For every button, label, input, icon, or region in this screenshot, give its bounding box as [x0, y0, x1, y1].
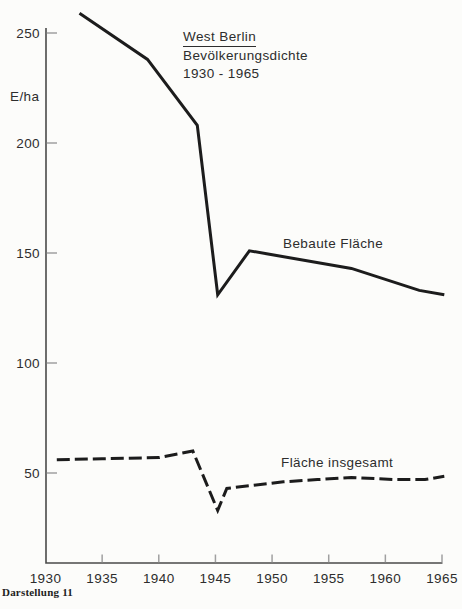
x-axis-tick-label: 1950: [256, 571, 288, 586]
y-axis-unit-label: E/ha: [10, 89, 39, 104]
x-axis-tick-label: 1930: [30, 571, 62, 586]
x-axis-tick-label: 1960: [370, 571, 402, 586]
chart-canvas: 5010015020025019301935194019451950195519…: [0, 0, 462, 609]
y-axis-tick-label: 200: [16, 136, 40, 151]
x-axis-tick-label: 1940: [143, 571, 175, 586]
series-label-bebaute-flaeche: Bebaute Fläche: [283, 236, 383, 251]
y-axis-tick-label: 50: [24, 466, 40, 481]
x-axis-tick-label: 1945: [200, 571, 232, 586]
y-axis-tick-label: 100: [16, 356, 40, 371]
figure-caption: Darstellung 11: [2, 586, 73, 598]
chart-title: West Berlin Bevölkerungsdichte 1930 - 19…: [183, 28, 308, 82]
x-axis-tick-label: 1955: [313, 571, 345, 586]
x-axis-tick-label: 1965: [426, 571, 458, 586]
series-label-flaeche-insgesamt: Fläche insgesamt: [281, 455, 393, 470]
x-axis-tick-label: 1935: [86, 571, 118, 586]
y-axis-tick-label: 150: [16, 246, 40, 261]
chart-title-region: West Berlin: [183, 28, 256, 47]
scanned-chart-page: 5010015020025019301935194019451950195519…: [0, 0, 462, 609]
chart-title-period: 1930 - 1965: [183, 65, 308, 83]
chart-title-subject: Bevölkerungsdichte: [183, 47, 308, 65]
y-axis-tick-label: 250: [16, 26, 40, 41]
axis-lines: [46, 28, 443, 563]
